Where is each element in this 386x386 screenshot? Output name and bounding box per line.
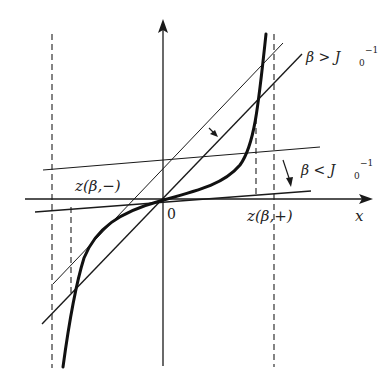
- label-beta-less: β < J 0 −1: [300, 158, 373, 181]
- label-beta-less-sup: −1: [360, 158, 373, 168]
- label-beta-greater-main: β > J: [305, 49, 342, 65]
- line-flat-upper: [43, 147, 320, 170]
- label-beta-greater-sup: −1: [365, 45, 378, 55]
- label-origin: 0: [167, 206, 176, 222]
- label-beta-less-sub: 0: [354, 171, 360, 181]
- diagram: z(β,−) z(β,+) 0 x β > J 0 −1 β < J 0 −1: [0, 0, 386, 386]
- rotation-arrow-upper-head-icon: [210, 130, 218, 137]
- label-beta-greater-sub: 0: [359, 58, 365, 68]
- label-beta-greater: β > J 0 −1: [305, 45, 378, 68]
- label-beta-less-main: β < J: [300, 162, 337, 178]
- rotation-arrow-lower-head-icon: [286, 177, 293, 187]
- s-curve: [63, 34, 266, 367]
- label-z-plus: z(β,+): [246, 207, 293, 225]
- label-x-axis: x: [355, 207, 364, 225]
- label-z-minus: z(β,−): [74, 177, 121, 195]
